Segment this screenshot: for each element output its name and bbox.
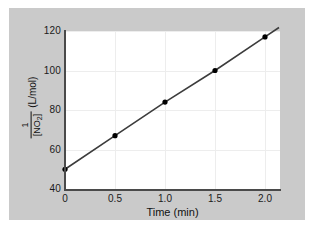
y-axis-title: 1 [NO2] (L/mol)	[21, 47, 44, 167]
x-tick-label: 0.5	[98, 194, 132, 204]
figure-page: 406080100120 00.51.01.52.0 Time (min) 1 …	[0, 0, 314, 235]
denominator-subscript: 2	[36, 116, 43, 120]
fraction-numerator: 1	[21, 120, 31, 129]
series-line-chart	[65, 31, 280, 189]
x-tick-label: 0	[48, 194, 82, 204]
y-axis-units: (L/mol)	[26, 77, 37, 108]
x-axis-title: Time (min)	[65, 206, 280, 218]
x-tick-label: 1.0	[148, 194, 182, 204]
x-tick-label: 2.0	[248, 194, 282, 204]
y-tick-label: 120	[27, 26, 61, 36]
series-line	[65, 28, 279, 170]
y-axis-fraction: 1 [NO2]	[21, 112, 44, 138]
figure-panel: 406080100120 00.51.01.52.0 Time (min) 1 …	[9, 8, 305, 220]
plot-area	[65, 31, 280, 189]
y-axis-line	[64, 30, 66, 190]
x-axis-line	[64, 189, 281, 191]
y-tick-label: 40	[27, 184, 61, 194]
denominator-close: ]	[32, 114, 42, 117]
data-point	[262, 34, 267, 39]
x-tick-label: 1.5	[198, 194, 232, 204]
fraction-denominator: [NO2]	[32, 112, 44, 138]
data-point	[212, 68, 217, 73]
denominator-open: [NO	[32, 120, 42, 136]
data-point	[112, 133, 117, 138]
data-point	[162, 100, 167, 105]
